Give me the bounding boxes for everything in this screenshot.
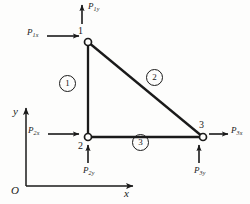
- x-axis-label: x: [124, 188, 129, 199]
- node-1-circle: [85, 39, 92, 46]
- element-label-1: 1: [59, 75, 76, 92]
- force-label-2y: P2y: [83, 166, 95, 175]
- member-2-diagonal: [88, 42, 203, 137]
- origin-label: O: [11, 185, 19, 196]
- force-subscript-2y: 2y: [89, 170, 95, 176]
- force-subscript-3y: 3y: [200, 170, 206, 176]
- element-label-3: 3: [132, 134, 149, 151]
- node-label-2: 2: [78, 141, 83, 151]
- truss-members: [88, 42, 203, 137]
- force-label-3x: P3x: [231, 126, 243, 135]
- y-axis-label: y: [13, 106, 18, 117]
- force-subscript-1y: 1y: [94, 6, 100, 12]
- force-symbol-1x: P: [27, 27, 33, 37]
- force-symbol-2y: P: [83, 165, 89, 175]
- force-symbol-3x: P: [231, 125, 237, 135]
- force-subscript-2x: 2x: [34, 130, 40, 136]
- force-label-2x: P2x: [28, 126, 40, 135]
- node-2-circle: [85, 134, 92, 141]
- node-label-3: 3: [199, 120, 204, 130]
- force-subscript-3x: 3x: [237, 130, 243, 136]
- node-3-circle: [200, 134, 207, 141]
- force-subscript-1x: 1x: [33, 32, 39, 38]
- force-label-1x: P1x: [27, 28, 39, 37]
- force-label-3y: P3y: [194, 166, 206, 175]
- force-symbol-3y: P: [194, 165, 200, 175]
- force-label-1y: P1y: [88, 2, 100, 11]
- element-label-2: 2: [146, 69, 163, 86]
- force-symbol-2x: P: [28, 125, 34, 135]
- force-symbol-1y: P: [88, 1, 94, 11]
- truss-figure: 1 2 3 1 2 3 P1y P1x P2x P2y P3x P3y y x …: [0, 0, 250, 204]
- node-label-1: 1: [78, 26, 83, 36]
